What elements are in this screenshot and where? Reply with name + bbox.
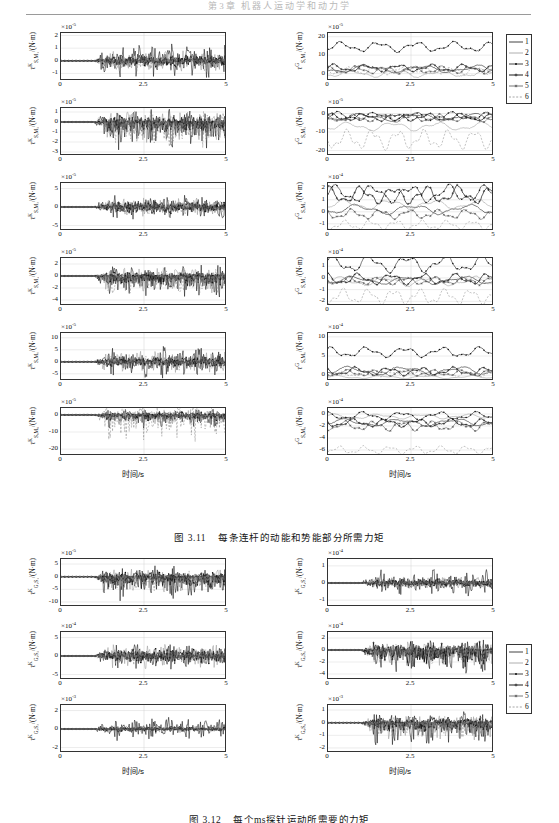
legend-item-2[interactable]: 2: [508, 47, 529, 58]
x-axis-tick: 0: [325, 156, 329, 163]
x-axis-tick: 2.5: [406, 306, 415, 313]
y-axis-tick: -4: [319, 434, 325, 441]
y-axis-label: τKG₂S₂/(N·m): [30, 631, 40, 668]
legend-line-sample-1: [508, 37, 524, 47]
chart-panel-S₁M₁: τGS₁M₁/(N·m) 20100 ×10-5 02.55: [297, 32, 493, 91]
plot-area[interactable]: [60, 332, 226, 380]
y-axis-tick: 0: [322, 69, 326, 76]
y-axis-exponent: ×10-4: [328, 247, 343, 256]
legend-item-1[interactable]: 1: [508, 36, 529, 47]
x-axis-ticks: 02.55: [60, 455, 226, 466]
y-axis-ticks: 10-1-2-3: [40, 107, 60, 155]
x-axis-tick: 5: [491, 81, 495, 88]
plot-area[interactable]: [60, 32, 226, 80]
legend-item-label: 3: [524, 669, 529, 679]
y-axis-exponent: ×10-3: [61, 694, 76, 703]
plot-area[interactable]: [327, 631, 493, 679]
y-axis-tick: 2: [55, 31, 59, 38]
legend-item-1[interactable]: 1: [508, 646, 529, 657]
plot-area[interactable]: [60, 182, 226, 230]
x-axis-tick: 0: [325, 607, 329, 614]
y-axis-tick: -4: [52, 296, 58, 303]
plot-area[interactable]: [60, 704, 226, 752]
y-axis-ticks: 50-5: [40, 631, 60, 679]
y-axis-ticks: 0-2-4-6: [307, 407, 327, 455]
x-axis-tick: 0: [325, 81, 329, 88]
x-axis-tick: 5: [491, 231, 495, 238]
y-axis-label: τKS₁M₁/(N·m): [30, 32, 40, 69]
y-axis-tick: -10: [49, 597, 58, 604]
plot-area[interactable]: [327, 704, 493, 752]
x-axis-ticks: 02.55: [327, 155, 493, 166]
plot-area[interactable]: [327, 407, 493, 455]
x-axis-tick: 0: [325, 381, 329, 388]
legend-item-label: 1: [524, 37, 529, 47]
legend-item-5[interactable]: 5: [508, 690, 529, 701]
x-axis-label-right: 时间/s: [317, 468, 483, 479]
y-axis-tick: 0: [322, 109, 326, 116]
y-axis-tick: 1: [55, 44, 59, 51]
figure-3-12-caption-text: 每个ms探针运动所需要的力矩: [233, 815, 370, 823]
chart-panel-G₅S₅: τKG₅S₅/(N·m) 20-2-4 ×10-4 02.55: [297, 631, 493, 690]
y-axis-label: τGS₂M₂/(N·m): [297, 107, 307, 144]
plot-area[interactable]: [60, 558, 226, 606]
plot-area[interactable]: [327, 182, 493, 230]
y-axis-label: τKS₂M₂/(N·m): [30, 107, 40, 144]
y-axis-tick: -6: [319, 446, 325, 453]
figure-3-12-caption-label: 图 3.12: [189, 815, 221, 823]
y-axis-tick: 2: [322, 183, 326, 190]
y-axis-label: τKS₃M₃/(N·m): [30, 182, 40, 219]
legend-item-2[interactable]: 2: [508, 657, 529, 668]
legend-item-6[interactable]: 6: [508, 91, 529, 102]
legend-line-sample-4: [508, 680, 524, 690]
chart-panel-S₆M₆: τKS₆M₆/(N·m) 0-10-20 ×10-5 02.55: [30, 407, 226, 466]
y-axis-label: τKS₅M₅/(N·m): [30, 332, 40, 369]
document-page: 第3章 机器人运动学和动力学 τKS₁M₁/(N·m) 210-1 ×10-5 …: [0, 0, 559, 823]
x-axis-tick: 0: [58, 81, 62, 88]
chart-panel-S₃M₃: τGS₃M₃/(N·m) 210-1 ×10-4 02.55: [297, 182, 493, 241]
legend-item-3[interactable]: 3: [508, 58, 529, 69]
legend-item-4[interactable]: 4: [508, 69, 529, 80]
plot-area[interactable]: [327, 558, 493, 606]
legend-item-label: 1: [524, 647, 529, 657]
chart-panel-G₂S₂: τKG₂S₂/(N·m) 50-5 ×10-4 02.55: [30, 631, 226, 690]
figure-3-11: τKS₁M₁/(N·m) 210-1 ×10-5 02.55 τKS₂M₂/(N…: [0, 22, 559, 492]
plot-area[interactable]: [327, 332, 493, 380]
y-axis-tick: -20: [49, 445, 58, 452]
legend-line-sample-5: [508, 81, 524, 91]
x-axis-tick: 5: [224, 753, 228, 760]
y-axis-tick: 2: [322, 634, 326, 641]
y-axis-tick: 2: [55, 260, 59, 267]
plot-area[interactable]: [60, 257, 226, 305]
legend-item-5[interactable]: 5: [508, 80, 529, 91]
y-axis-label: τKS₆M₆/(N·m): [30, 407, 40, 444]
x-axis-tick: 2.5: [406, 456, 415, 463]
y-axis-tick: 0: [55, 410, 59, 417]
y-axis-tick: -4: [319, 670, 325, 677]
chart-panel-S₅M₅: τKS₅M₅/(N·m) 1050-5 ×10-5 02.55: [30, 332, 226, 391]
y-axis-exponent: ×10-4: [328, 397, 343, 406]
legend-item-4[interactable]: 4: [508, 679, 529, 690]
y-axis-ticks: 50-5-10: [40, 558, 60, 606]
x-axis-tick: 0: [58, 306, 62, 313]
figure-3-11-panel-grid: τKS₁M₁/(N·m) 210-1 ×10-5 02.55 τKS₂M₂/(N…: [0, 22, 559, 492]
running-header: 第3章 机器人运动学和动力学: [0, 0, 559, 12]
chart-legend: 123456: [506, 34, 532, 104]
chart-panel-S₄M₄: τGS₄M₄/(N·m) 10-1-2 ×10-4 02.55: [297, 257, 493, 316]
plot-area[interactable]: [327, 32, 493, 80]
legend-item-3[interactable]: 3: [508, 668, 529, 679]
x-axis-tick: 5: [491, 607, 495, 614]
plot-area[interactable]: [327, 257, 493, 305]
plot-area[interactable]: [60, 631, 226, 679]
plot-area[interactable]: [327, 107, 493, 155]
x-axis-tick: 0: [325, 456, 329, 463]
chart-panel-S₂M₂: τKS₂M₂/(N·m) 10-1-2-3 ×10-5 02.55: [30, 107, 226, 166]
y-axis-exponent: ×10-4: [328, 172, 343, 181]
plot-area[interactable]: [60, 407, 226, 455]
x-axis-tick: 0: [325, 753, 329, 760]
x-axis-ticks: 02.55: [60, 230, 226, 241]
x-axis-tick: 0: [58, 607, 62, 614]
legend-item-6[interactable]: 6: [508, 701, 529, 712]
chart-panel-G₄S₄: τKG₄S₄/(N·m) 10-1 ×10-4 02.55: [297, 558, 493, 617]
plot-area[interactable]: [60, 107, 226, 155]
